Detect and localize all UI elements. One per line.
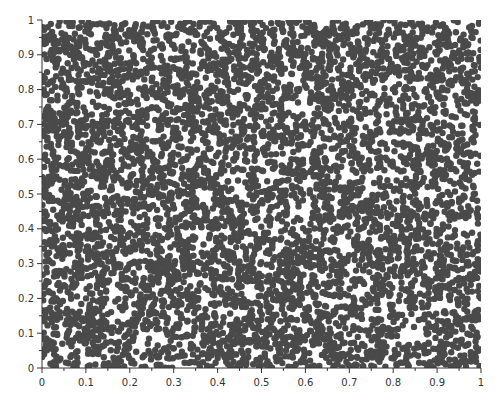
scatter-chart: 00.10.20.30.40.50.60.70.80.91 00.10.20.3… [0,0,500,409]
y-tick-label: 0 [28,363,34,374]
y-tick-label: 1 [28,15,34,26]
x-tick-label: 0.3 [166,377,182,388]
y-axis-ticks: 00.10.20.30.40.50.60.70.80.91 [18,15,42,374]
x-tick-label: 0.6 [297,377,313,388]
x-tick-label: 0.1 [78,377,94,388]
y-tick-label: 0.2 [18,293,34,304]
y-tick-label: 0.6 [18,154,34,165]
x-tick-label: 1 [478,377,484,388]
y-tick-label: 0.5 [18,189,34,200]
x-axis-ticks: 00.10.20.30.40.50.60.70.80.91 [39,368,484,388]
y-tick-label: 0.9 [18,49,34,60]
x-tick-label: 0.8 [385,377,401,388]
x-tick-label: 0.7 [341,377,357,388]
y-tick-label: 0.4 [18,223,34,234]
x-tick-label: 0.4 [210,377,226,388]
x-tick-label: 0.9 [429,377,445,388]
y-tick-label: 0.8 [18,84,34,95]
y-tick-label: 0.1 [18,328,34,339]
x-tick-label: 0.2 [122,377,138,388]
x-tick-label: 0 [39,377,45,388]
y-tick-label: 0.7 [18,119,34,130]
x-tick-label: 0.5 [254,377,270,388]
scatter-points [39,17,484,371]
y-tick-label: 0.3 [18,258,34,269]
